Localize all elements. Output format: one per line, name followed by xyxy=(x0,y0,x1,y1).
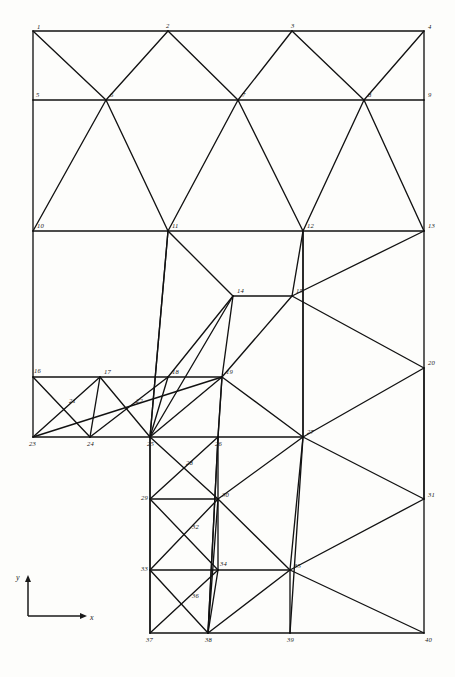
node-label-16: 16 xyxy=(34,367,41,374)
mesh-edge xyxy=(150,570,208,633)
mesh-edge xyxy=(150,377,222,437)
mesh-edge xyxy=(290,499,424,570)
node-label-23: 23 xyxy=(29,440,36,447)
mesh-edge xyxy=(292,231,424,296)
node-label-22: 22 xyxy=(136,397,143,404)
node-label-39: 39 xyxy=(286,636,294,643)
mesh-edge xyxy=(33,31,106,100)
node-label-37: 37 xyxy=(145,636,153,643)
mesh-diagram-canvas: 1234567891011121314151617181920212223242… xyxy=(0,0,455,677)
mesh-edge xyxy=(238,31,292,100)
node-label-13: 13 xyxy=(428,222,435,229)
node-label-28: 28 xyxy=(186,459,193,466)
node-label-35: 35 xyxy=(293,562,301,569)
mesh-edge xyxy=(168,100,238,231)
node-label-40: 40 xyxy=(425,636,432,643)
mesh-edge xyxy=(218,437,303,499)
mesh-edge xyxy=(33,377,100,437)
mesh-edge xyxy=(150,296,233,437)
y-axis-arrowhead xyxy=(25,575,31,582)
mesh-edge xyxy=(290,570,424,633)
node-label-4: 4 xyxy=(428,23,432,30)
coordinate-axis-indicator: y x xyxy=(15,573,94,622)
mesh-edge xyxy=(292,296,424,368)
node-label-25: 25 xyxy=(147,440,154,447)
node-label-27: 27 xyxy=(307,428,314,435)
mesh-edge xyxy=(303,437,424,499)
node-label-6: 6 xyxy=(110,91,114,98)
node-label-3: 3 xyxy=(290,22,295,29)
node-label-29: 29 xyxy=(141,494,148,501)
mesh-edge xyxy=(364,31,424,100)
mesh-edge xyxy=(303,368,424,437)
mesh-edge xyxy=(292,31,364,100)
node-label-2: 2 xyxy=(166,22,170,29)
node-label-19: 19 xyxy=(226,368,233,375)
node-label-38: 38 xyxy=(204,636,212,643)
mesh-edge xyxy=(208,570,290,633)
node-label-33: 33 xyxy=(140,565,148,572)
mesh-edge xyxy=(222,296,292,377)
node-label-36: 36 xyxy=(191,592,199,599)
node-label-20: 20 xyxy=(428,359,435,366)
node-label-17: 17 xyxy=(104,368,111,375)
mesh-edge xyxy=(168,231,233,296)
node-label-32: 32 xyxy=(191,523,199,530)
node-label-31: 31 xyxy=(427,491,435,498)
node-label-11: 11 xyxy=(172,222,178,229)
node-label-9: 9 xyxy=(428,91,432,98)
mesh-edge xyxy=(364,100,424,231)
node-label-30: 30 xyxy=(221,491,229,498)
node-label-7: 7 xyxy=(242,91,246,98)
x-axis-arrowhead xyxy=(80,613,87,619)
mesh-edge xyxy=(303,100,364,231)
node-label-5: 5 xyxy=(36,91,40,98)
mesh-edge xyxy=(33,100,106,231)
y-axis-label: y xyxy=(15,573,20,582)
mesh-svg: 1234567891011121314151617181920212223242… xyxy=(0,0,455,677)
mesh-edge xyxy=(90,377,100,437)
x-axis-label: x xyxy=(89,613,94,622)
node-label-18: 18 xyxy=(172,368,179,375)
node-label-26: 26 xyxy=(215,440,222,447)
node-label-15: 15 xyxy=(296,287,303,294)
mesh-edge xyxy=(100,377,150,437)
node-label-34: 34 xyxy=(219,560,227,567)
mesh-edge xyxy=(238,100,303,231)
node-label-24: 24 xyxy=(87,440,94,447)
node-label-14: 14 xyxy=(237,287,244,294)
node-label-10: 10 xyxy=(37,222,44,229)
mesh-node-labels-layer: 1234567891011121314151617181920212223242… xyxy=(29,22,435,643)
node-label-1: 1 xyxy=(37,23,40,30)
node-label-12: 12 xyxy=(307,222,314,229)
mesh-edge xyxy=(222,377,303,437)
mesh-edge xyxy=(218,377,222,437)
mesh-edge xyxy=(106,31,168,100)
mesh-edge xyxy=(218,499,290,570)
mesh-edges-layer xyxy=(33,31,424,633)
mesh-edge xyxy=(106,100,168,231)
mesh-edge xyxy=(168,31,238,100)
mesh-edge xyxy=(290,437,303,633)
node-label-8: 8 xyxy=(368,91,372,98)
node-label-21: 21 xyxy=(69,397,76,404)
mesh-edge xyxy=(150,570,218,633)
